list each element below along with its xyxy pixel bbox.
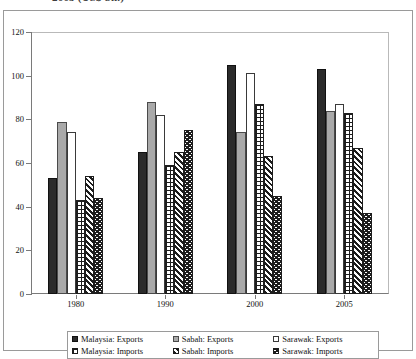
y-axis-tick (26, 163, 31, 164)
y-axis-label: 120 (4, 27, 24, 37)
y-axis-label: 0 (4, 289, 24, 299)
bar (174, 152, 183, 294)
legend-label: Malaysia: Exports (81, 335, 143, 344)
bar (344, 113, 353, 294)
figure-caption-cutoff: 2005 (US$ bn.) (0, 0, 416, 9)
bar (317, 69, 326, 294)
x-axis-label: 1990 (135, 299, 195, 309)
legend-item: Sabah: Imports (173, 347, 274, 356)
bar (264, 156, 273, 294)
chart-legend: Malaysia: ExportsSabah: ExportsSarawak: … (67, 331, 379, 359)
legend-item: Sarawak: Imports (273, 347, 374, 356)
bar (165, 165, 174, 294)
y-axis-label: 40 (4, 202, 24, 212)
bar (353, 148, 362, 294)
y-axis-label: 80 (4, 114, 24, 124)
y-axis-label: 100 (4, 71, 24, 81)
legend-item: Sabah: Exports (173, 335, 274, 344)
legend-swatch-icon (273, 336, 279, 342)
legend-swatch-icon (72, 336, 78, 342)
figure-caption-text: 2005 (US$ bn.) (52, 0, 124, 3)
bar (326, 111, 335, 294)
bar (76, 200, 85, 294)
x-axis-label: 2000 (225, 299, 285, 309)
bar (138, 152, 147, 294)
bar (147, 102, 156, 294)
x-axis-label: 2005 (314, 299, 374, 309)
y-axis-tick (26, 32, 31, 33)
bar (273, 196, 282, 294)
bar (156, 115, 165, 294)
y-axis-label: 60 (4, 158, 24, 168)
y-axis-tick (26, 76, 31, 77)
figure-frame: 0204060801001201980199020002005 Malaysia… (3, 10, 413, 351)
legend-swatch-icon (173, 336, 179, 342)
legend-swatch-icon (273, 348, 279, 354)
bar (236, 132, 245, 294)
legend-label: Malaysia: Imports (81, 347, 143, 356)
legend-label: Sabah: Exports (182, 335, 234, 344)
legend-swatch-icon (72, 348, 78, 354)
y-axis-line (31, 32, 32, 295)
bar (335, 104, 344, 294)
bar-group (317, 32, 372, 294)
bar (94, 198, 103, 294)
y-axis-tick (26, 119, 31, 120)
legend-label: Sabah: Imports (182, 347, 234, 356)
bar (227, 65, 236, 294)
y-axis-label: 20 (4, 245, 24, 255)
legend-label: Sarawak: Imports (282, 347, 342, 356)
bar (255, 104, 264, 294)
bar-group (48, 32, 103, 294)
y-axis-tick (26, 207, 31, 208)
bar (363, 213, 372, 294)
legend-item: Malaysia: Exports (72, 335, 173, 344)
bar-group (138, 32, 193, 294)
x-axis-label: 1980 (46, 299, 106, 309)
bar-group (227, 32, 282, 294)
legend-item: Malaysia: Imports (72, 347, 173, 356)
legend-item: Sarawak: Exports (273, 335, 374, 344)
legend-swatch-icon (173, 348, 179, 354)
bar (57, 122, 66, 294)
bar (48, 178, 57, 294)
y-axis-tick (26, 250, 31, 251)
bar (67, 132, 76, 294)
bar (85, 176, 94, 294)
bar (246, 73, 255, 294)
legend-label: Sarawak: Exports (282, 335, 342, 344)
y-axis-tick (26, 294, 31, 295)
bar (184, 130, 193, 294)
